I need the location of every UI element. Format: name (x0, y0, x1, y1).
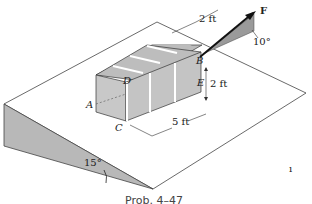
stray-mark: ı (289, 163, 292, 174)
diagram-canvas: 15° D A C B E 2 ft 2 ft (0, 0, 312, 204)
point-label-c: C (115, 122, 123, 133)
point-label-d: D (122, 75, 131, 86)
point-label-b: B (195, 55, 203, 66)
incline-angle-label: 15° (84, 157, 102, 168)
force-angle-label: 10° (253, 36, 271, 47)
svg-text:5 ft: 5 ft (172, 116, 189, 127)
svg-text:2 ft: 2 ft (210, 78, 227, 89)
figure-caption: Prob. 4–47 (125, 194, 183, 204)
point-label-e: E (196, 77, 205, 88)
dimension-width-top: 2 ft (172, 10, 218, 33)
force-label: F (260, 5, 267, 16)
point-label-a: A (85, 99, 93, 110)
svg-text:2 ft: 2 ft (199, 13, 216, 24)
